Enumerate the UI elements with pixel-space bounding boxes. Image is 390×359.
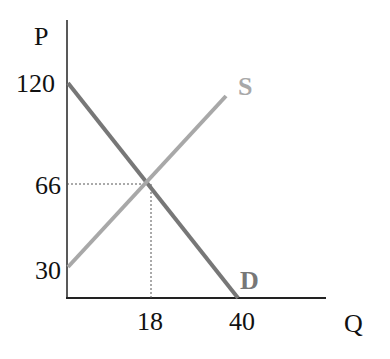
y-tick-66: 66 bbox=[35, 171, 61, 200]
supply-curve bbox=[68, 96, 226, 267]
x-tick-40: 40 bbox=[229, 307, 255, 336]
x-tick-18: 18 bbox=[137, 307, 163, 336]
demand-curve bbox=[68, 83, 238, 298]
y-axis-label: P bbox=[34, 22, 48, 51]
x-axis-label: Q bbox=[344, 309, 363, 338]
y-tick-30: 30 bbox=[35, 256, 61, 285]
y-tick-120: 120 bbox=[16, 69, 55, 98]
demand-label: D bbox=[240, 266, 259, 295]
supply-label: S bbox=[238, 72, 252, 101]
supply-demand-chart: P 120 66 30 18 40 Q S D bbox=[0, 0, 390, 359]
